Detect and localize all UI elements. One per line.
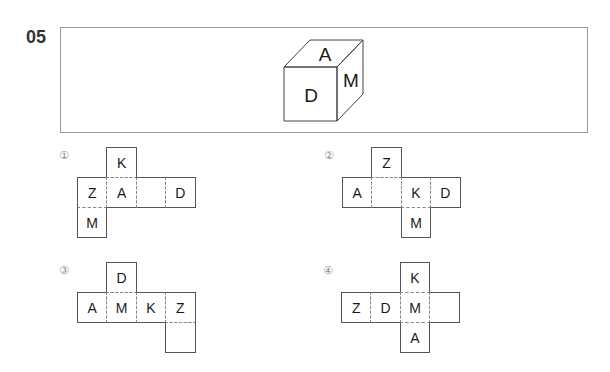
net-face: K: [400, 262, 430, 293]
net-face: A: [342, 177, 372, 208]
option-1-label: ①: [59, 149, 69, 162]
net-face: M: [106, 292, 136, 323]
question-number: 05: [26, 27, 46, 48]
cube-front-letter: D: [304, 85, 318, 106]
net-face: M: [401, 207, 431, 238]
net-face: D: [165, 177, 195, 208]
net-face: Z: [371, 147, 401, 178]
net-face: A: [106, 177, 136, 208]
net-face: [371, 177, 401, 208]
net-face: Z: [77, 177, 107, 208]
net-face: K: [136, 292, 166, 323]
cube-top-letter: A: [319, 44, 332, 65]
cube-figure: A D M: [276, 36, 376, 128]
cube-right-letter: M: [343, 70, 359, 91]
net-face: [429, 292, 459, 323]
net-face: A: [77, 292, 107, 323]
net-face: Z: [165, 292, 195, 323]
net-face: [136, 177, 166, 208]
net-face: M: [400, 292, 430, 323]
net-face: D: [370, 292, 400, 323]
net-face: M: [77, 207, 107, 238]
net-face: K: [401, 177, 431, 208]
net-face: D: [106, 262, 136, 293]
net-face: [165, 322, 195, 353]
net-face: Z: [341, 292, 371, 323]
net-face: K: [106, 147, 136, 178]
option-2-label: ②: [324, 149, 334, 162]
option-4-label: ④: [323, 264, 333, 277]
net-face: A: [400, 322, 430, 353]
net-face: D: [430, 177, 460, 208]
option-3-label: ③: [59, 264, 69, 277]
